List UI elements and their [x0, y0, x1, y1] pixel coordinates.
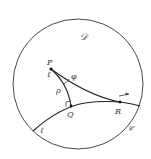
label-boundary-c: 𝒞 [128, 125, 135, 133]
label-line-l: ℓ [40, 126, 44, 135]
label-region-d: 𝒟 [80, 32, 89, 42]
arrow-right-icon [119, 93, 129, 97]
segment-pr [51, 69, 120, 102]
point-r [119, 101, 122, 104]
hyperbolic-disk-diagram: 𝒟 P ℓ φ ρ Q R ℓ 𝒞 [0, 0, 151, 159]
label-point-q: Q [67, 110, 74, 119]
label-rho: ρ [55, 86, 61, 95]
geodesic-line-l [33, 102, 140, 131]
boundary-circle [13, 19, 143, 149]
label-point-p-sub: ℓ [47, 70, 51, 79]
label-point-r: R [114, 107, 121, 116]
label-point-p: P [46, 58, 53, 67]
segment-pq [51, 69, 71, 106]
point-q [70, 105, 73, 108]
label-phi: φ [71, 72, 77, 81]
